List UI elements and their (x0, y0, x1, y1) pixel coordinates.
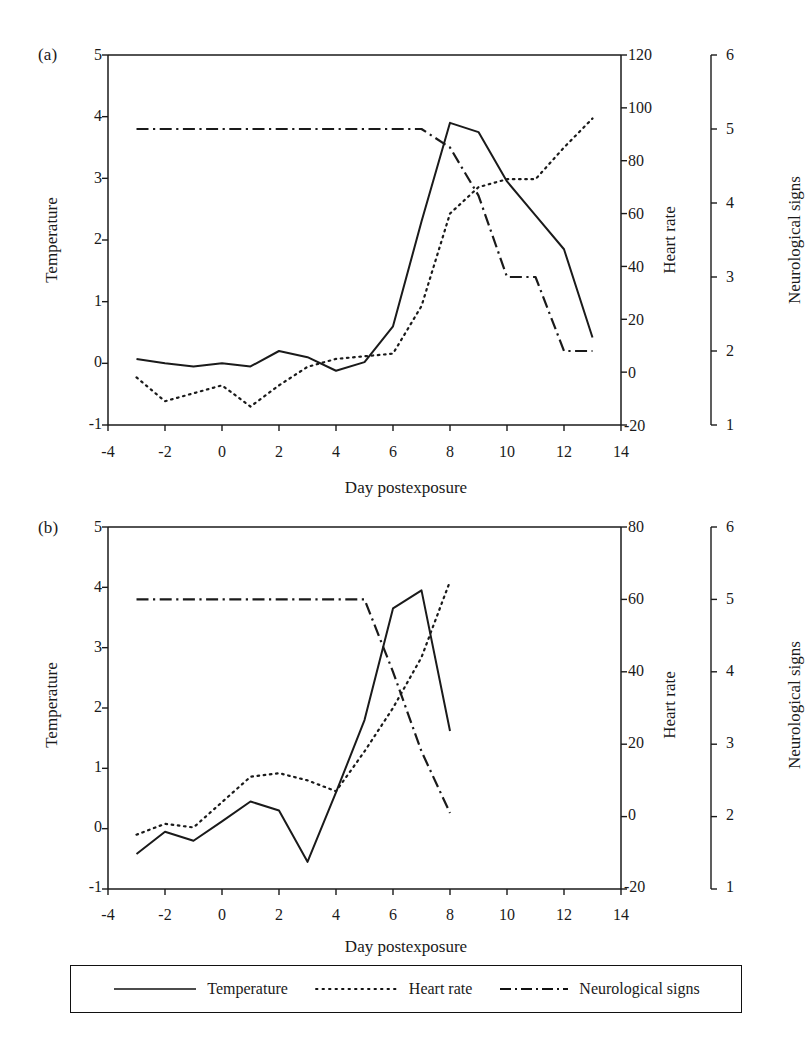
legend-entry-heart-rate: Heart rate (314, 980, 473, 998)
legend-items: Temperature Heart rate Neurological sign… (112, 980, 700, 998)
panel-b-xtick-0: 0 (198, 906, 246, 924)
panel-b: (b) Temperature Heart rate Neurological … (0, 500, 812, 900)
panel-b-plot (0, 500, 812, 900)
panel-b-xtick-10: 10 (483, 906, 531, 924)
panel-b-xtick-14: 14 (597, 906, 645, 924)
panel-b-xtick-2: 2 (255, 906, 303, 924)
figure-root: (a) Temperature Heart rate Neurological … (0, 0, 812, 1045)
legend-swatch-solid-icon (112, 983, 198, 995)
legend-label-temperature: Temperature (207, 980, 288, 998)
legend: Temperature Heart rate Neurological sign… (70, 965, 742, 1013)
panel-b-xtick-neg2: -2 (141, 906, 189, 924)
panel-b-xlabel: Day postexposure (0, 937, 812, 957)
legend-label-neurological-signs: Neurological signs (579, 980, 699, 998)
legend-entry-temperature: Temperature (112, 980, 288, 998)
panel-b-xtick-12: 12 (540, 906, 588, 924)
panel-b-xtick-neg4: -4 (84, 906, 132, 924)
legend-swatch-dotted-icon (314, 983, 400, 995)
legend-swatch-dashdot-icon (498, 983, 570, 995)
legend-entry-neurological-signs: Neurological signs (498, 980, 699, 998)
panel-b-xtick-4: 4 (312, 906, 360, 924)
panel-b-xtick-6: 6 (369, 906, 417, 924)
panel-a: (a) Temperature Heart rate Neurological … (0, 0, 812, 500)
legend-label-heart-rate: Heart rate (409, 980, 473, 998)
panel-b-xtick-8: 8 (426, 906, 474, 924)
panel-a-plot (0, 0, 812, 500)
